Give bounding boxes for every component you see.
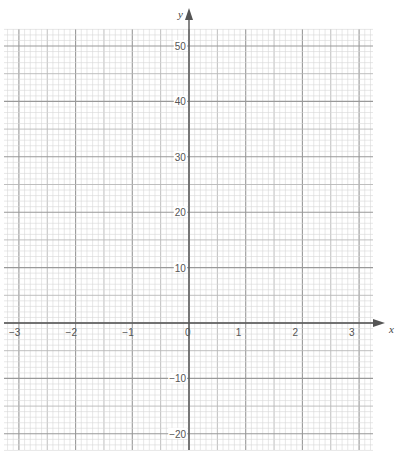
- x-axis-arrow-icon: [373, 319, 385, 327]
- y-tick-label: −20: [169, 429, 186, 440]
- x-tick-label: 2: [292, 327, 298, 338]
- y-axis-arrow-icon: [185, 8, 193, 20]
- x-tick-label: −1: [122, 327, 134, 338]
- x-tick-label: 3: [349, 327, 355, 338]
- x-axis-title: x: [388, 323, 394, 335]
- y-tick-label: 30: [175, 152, 187, 163]
- x-tick-label: 0: [185, 327, 191, 338]
- x-tick-label: −3: [9, 327, 21, 338]
- y-tick-label: 50: [175, 41, 187, 52]
- y-tick-label: 40: [175, 96, 187, 107]
- graph-paper-chart: x y −3−2−10123−20−101020304050: [0, 0, 400, 453]
- x-tick-label: −2: [66, 327, 78, 338]
- y-tick-label: 20: [175, 207, 187, 218]
- y-tick-label: −10: [169, 373, 186, 384]
- y-tick-label: 10: [175, 263, 187, 274]
- y-axis-title: y: [177, 8, 183, 20]
- x-tick-label: 1: [236, 327, 242, 338]
